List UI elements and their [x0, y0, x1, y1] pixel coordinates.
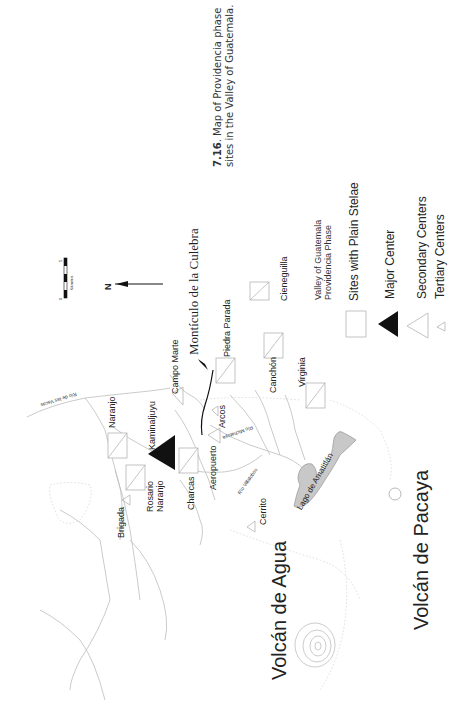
caption-number: 7.16: [212, 142, 223, 167]
river-tributary: [130, 540, 167, 640]
river-network: [27, 375, 305, 700]
river-tributary: [255, 390, 280, 455]
site-label-arcos: Arcos: [217, 405, 227, 428]
legend-title: Valley of Guatemala Providencia Phase: [313, 220, 333, 300]
contour-ring: [310, 636, 326, 656]
site-label-cieneguilla: Cieneguilla: [279, 256, 289, 301]
legend-secondary-symbol: [407, 313, 428, 338]
monticulo-culebra-label: Montículo de la Culebra: [186, 228, 202, 355]
site-label-campo-marte: Campo Marte: [170, 339, 180, 394]
figure-caption: 7.16. Map of Providencia phase sites in …: [212, 5, 236, 167]
legend-title-line1: Valley of Guatemala: [313, 220, 323, 300]
legend-item-secondary-centers: Secondary Centers: [415, 196, 429, 299]
contour-line: [230, 530, 360, 600]
culebra-arrow-icon: [198, 359, 208, 370]
scale-bar: [64, 258, 67, 298]
scale-end-label: 5: [58, 260, 63, 262]
legend-major-center-symbol: [378, 311, 398, 337]
scale-start-label: 0: [58, 298, 63, 300]
site-naranjo-stela-symbol: [108, 433, 127, 458]
site-label-charcas: Charcas: [186, 476, 196, 510]
legend-item-tertiary-centers: Tertiary Centers: [433, 214, 447, 299]
north-arrow-icon: [115, 281, 163, 287]
site-label-rosario-naranjo: Naranjo: [155, 480, 165, 512]
site-rosario-stela-symbol: [126, 465, 145, 490]
monticulo-culebra-line: [201, 370, 213, 435]
site-label-rosario: Rosario: [145, 481, 155, 512]
scale-unit-label: Kilometers: [70, 276, 74, 290]
site-label-canchon: Canchón: [268, 357, 278, 393]
legend-item-major-center: Major Center: [383, 230, 397, 299]
legend-tertiary-symbol: [437, 322, 445, 331]
volcan-de-pacaya-label: Volcán de Pacaya: [410, 470, 433, 630]
contour-line: [50, 483, 92, 524]
contour-line: [320, 540, 347, 690]
volcan-de-pacaya-symbol: [389, 488, 401, 500]
site-cieneguilla-stela-symbol: [250, 282, 269, 300]
legend-title-line2: Providencia Phase: [323, 220, 333, 300]
site-virginia-stela-symbol: [306, 383, 325, 408]
site-label-virginia: Virginia: [297, 357, 307, 387]
legend-square-symbol: [346, 311, 366, 337]
site-piedra-parada-stela-symbol: [216, 358, 235, 383]
caption-text: . Map of Providencia phase: [212, 8, 223, 143]
river-tributary: [285, 395, 305, 460]
site-label-aeropuerto: Aeropuerto: [208, 445, 218, 490]
site-label-piedra-parada: Piedra Parada: [222, 299, 232, 357]
river-michatoya: [210, 425, 305, 470]
river-tributary: [60, 510, 110, 690]
contour-ring: [303, 630, 331, 662]
contour-line: [200, 398, 300, 401]
volcan-de-agua-label: Volcán de Agua: [268, 541, 291, 680]
site-charcas-stela-symbol: [179, 448, 198, 473]
site-label-brigada: Brigada: [116, 507, 126, 538]
site-label-kaminaljuyu: Kaminaljuyu: [147, 401, 157, 450]
legend-item-plain-stelae: Sites with Plain Stelae: [347, 182, 361, 301]
north-label: N: [103, 284, 113, 291]
river-tributary: [40, 610, 105, 700]
site-canchon-stela-symbol: [264, 333, 283, 358]
site-label-cerrito: Cerrito: [258, 498, 268, 525]
contour-ring: [315, 642, 321, 650]
caption-line2: sites in the Valley of Guatemala.: [224, 5, 236, 167]
site-cerrito-tertiary-icon: [247, 521, 255, 532]
site-label-naranjo: Naranjo: [107, 396, 117, 428]
volcan-de-agua-contours: [295, 623, 335, 667]
